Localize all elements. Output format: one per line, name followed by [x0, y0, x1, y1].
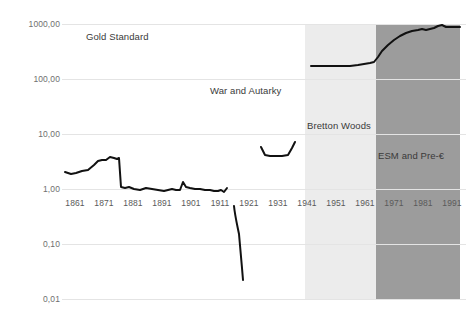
y-tick-label: 100,00 — [4, 74, 60, 84]
annotation-war-and-autarky: War and Autarky — [210, 85, 281, 96]
x-tick-label: 1861 — [65, 198, 84, 208]
x-tick-label: 1901 — [181, 198, 200, 208]
x-tick-label: 1991 — [442, 198, 461, 208]
x-tick-label: 1951 — [326, 198, 345, 208]
series-war-autarky — [261, 142, 295, 156]
x-tick-label: 1881 — [123, 198, 142, 208]
x-tick-label: 1961 — [355, 198, 374, 208]
x-tick-label: 1931 — [268, 198, 287, 208]
series-postwar-dm — [311, 25, 460, 66]
annotation-gold-standard: Gold Standard — [86, 31, 149, 42]
plot-area: Gold Standard War and Autarky Bretton Wo… — [62, 24, 466, 300]
y-tick-label: 0,10 — [4, 239, 60, 249]
y-axis: 1000,00 100,00 10,00 1,00 0,10 0,01 — [0, 24, 60, 300]
x-tick-label: 1891 — [152, 198, 171, 208]
series-gold-standard — [65, 157, 227, 192]
chart-container: 1000,00 100,00 10,00 1,00 0,10 0,01 — [0, 0, 476, 319]
annotation-bretton-woods: Bretton Woods — [307, 120, 371, 131]
x-tick-label: 1941 — [297, 198, 316, 208]
y-tick-label: 0,01 — [4, 294, 60, 304]
x-axis: 1861 1871 1881 1891 1901 1911 1921 1931 … — [62, 198, 466, 212]
x-tick-label: 1921 — [239, 198, 258, 208]
annotation-esm-and-pre-euro: ESM and Pre-€ — [378, 150, 444, 161]
x-tick-label: 1971 — [384, 198, 403, 208]
y-tick-label: 1,00 — [4, 184, 60, 194]
x-tick-label: 1871 — [94, 198, 113, 208]
series-hyperinflation — [234, 206, 243, 280]
x-tick-label: 1911 — [211, 198, 230, 208]
x-tick-label: 1981 — [413, 198, 432, 208]
series-layer — [62, 24, 466, 300]
y-tick-label: 1000,00 — [4, 19, 60, 29]
y-tick-label: 10,00 — [4, 129, 60, 139]
